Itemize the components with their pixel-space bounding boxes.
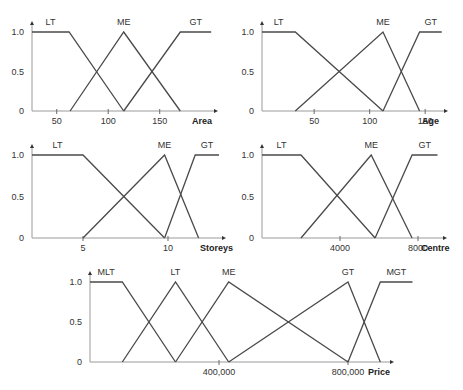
mf-gt (165, 155, 219, 238)
mf-label: ME (117, 17, 131, 27)
mf-label: ME (364, 140, 378, 150)
mf-label: MLT (97, 267, 115, 277)
y-tick-label: 0 (19, 106, 24, 116)
mf-label: MGT (386, 267, 406, 277)
mf-label: LT (274, 17, 284, 27)
x-tick-label: 10 (163, 243, 173, 253)
mf-gt (124, 32, 212, 111)
mf-label: ME (158, 140, 172, 150)
y-tick-label: 0 (249, 233, 254, 243)
y-tick-label: 0.5 (11, 192, 24, 202)
mf-lt (32, 155, 165, 238)
x-tick-label: 400,000 (203, 367, 236, 377)
x-axis-arrow-icon (444, 109, 448, 113)
mf-lt (262, 155, 375, 238)
x-tick-label: 50 (309, 116, 319, 126)
y-tick-label: 1.0 (11, 150, 24, 160)
mf-gt (383, 32, 442, 111)
y-tick-label: 0 (19, 233, 24, 243)
mf-label: ME (222, 267, 236, 277)
x-axis-title: Centre (421, 243, 450, 253)
mf-label: LT (53, 140, 63, 150)
x-tick-label: 4000 (330, 243, 350, 253)
y-tick-label: 1.0 (11, 27, 24, 37)
mf-mlt (90, 282, 176, 362)
x-tick-label: 800,000 (332, 367, 365, 377)
mf-me (176, 282, 349, 362)
x-tick-label: 100 (362, 116, 377, 126)
mf-me (70, 32, 180, 111)
mf-me (301, 155, 412, 238)
x-tick-label: 100 (101, 116, 116, 126)
mf-label: GT (419, 140, 432, 150)
x-axis-title: Area (192, 116, 213, 126)
x-tick-label: 50 (52, 116, 62, 126)
y-tick-label: 1.0 (69, 277, 82, 287)
x-tick-label: 5 (80, 243, 85, 253)
mf-label: ME (376, 17, 390, 27)
x-axis-arrow-icon (390, 360, 394, 364)
y-tick-label: 0.5 (11, 67, 24, 77)
mf-label: LT (277, 140, 287, 150)
x-axis-arrow-icon (222, 236, 226, 240)
y-tick-label: 1.0 (241, 150, 254, 160)
y-tick-label: 0.5 (241, 192, 254, 202)
mf-gt (229, 282, 381, 362)
mf-label: GT (201, 140, 214, 150)
x-axis-title: Storeys (200, 243, 233, 253)
fuzzy-membership-figure: 00.51.050100150AreaLTMEGT00.51.050100150… (0, 0, 463, 390)
mf-lt (262, 32, 383, 111)
y-axis-arrow-icon (260, 21, 264, 25)
mf-lt (122, 282, 228, 362)
y-tick-label: 0 (77, 357, 82, 367)
x-axis-arrow-icon (443, 236, 447, 240)
mf-label: LT (46, 17, 56, 27)
chart-storeys: 00.51.0510StoreysLTMEGT (11, 140, 233, 253)
y-axis-arrow-icon (30, 144, 34, 148)
y-axis-arrow-icon (260, 144, 264, 148)
x-tick-label: 150 (152, 116, 167, 126)
y-tick-label: 1.0 (241, 27, 254, 37)
chart-age: 00.51.050100150AgeLTMEGT (241, 17, 448, 126)
y-axis-arrow-icon (30, 21, 34, 25)
chart-area: 00.51.050100150AreaLTMEGT (11, 17, 218, 126)
chart-price: 00.51.0400,000800,000PriceMLTLTMEGTMGT (69, 267, 412, 377)
y-axis-arrow-icon (88, 271, 92, 275)
chart-centre: 00.51.040008000CentreLTMEGT (241, 140, 449, 253)
mf-label: GT (342, 267, 355, 277)
mf-label: GT (424, 17, 437, 27)
y-tick-label: 0.5 (241, 67, 254, 77)
mf-label: GT (190, 17, 203, 27)
mf-me (83, 155, 199, 238)
x-axis-title: Price (368, 367, 390, 377)
x-axis-arrow-icon (214, 109, 218, 113)
y-tick-label: 0.5 (69, 317, 82, 327)
x-axis-title: Age (422, 116, 439, 126)
y-tick-label: 0 (249, 106, 254, 116)
mf-label: LT (171, 267, 181, 277)
mf-mgt (348, 282, 413, 362)
